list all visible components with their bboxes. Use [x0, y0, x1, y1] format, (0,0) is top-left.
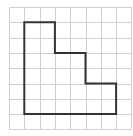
- grid-lines: [9, 7, 132, 130]
- grid-diagram: [0, 0, 133, 136]
